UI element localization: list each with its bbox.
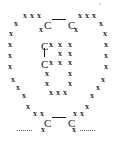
electron-cross-outer-top-left-arc: x [14,20,18,28]
electron-cross-inner-bottom-arc: x [56,89,60,97]
electron-cross-inner-mid-row: x [68,50,72,58]
bond-bond-bottom [52,117,66,118]
atom-label-c-mid-upper: C [41,41,48,52]
electron-cross-outer-right-column: x [104,41,108,49]
electron-cross-outer-top-right-arc: x [99,20,103,28]
electron-cross-inner-column-left: x [45,70,49,78]
electron-cross-inner-column-right: x [68,70,72,78]
electron-cross-outer-left-column: x [11,76,15,84]
electron-cross-outer-top-right-arc: x [85,12,89,20]
atom-label-c-bottom-right: C [68,118,75,129]
electron-cross-inner-lower-row: x [49,59,53,67]
electron-cross-inner-column-left: x [45,80,49,88]
bond-bond-left-dotted [17,130,32,131]
electron-cross-outer-top-left-arc: x [30,12,34,20]
electron-cross-inner-column-right: x [68,80,72,88]
electron-cross-outer-right-arc-lower: x [96,84,100,92]
electron-cross-inner-lower-row: x [68,59,72,67]
bond-bond-top [52,19,66,20]
electron-cross-outer-left-arc-lower: x [16,84,20,92]
electron-cross-outer-left-column: x [9,30,13,38]
electron-cross-outer-top-left-arc: x [37,12,41,20]
electron-cross-outer-left-arc-lower: x [22,92,26,100]
electron-cross-outer-top-right-arc: x [78,12,82,20]
electron-cross-inner-upper-row: x [58,41,62,49]
electron-cross-inner-upper-row: x [49,41,53,49]
electron-cross-outer-left-arc-lower: x [26,103,30,111]
electron-cross-inner-lower-row: x [58,59,62,67]
electron-cross-outer-right-column: x [104,63,108,71]
speck-mark [100,4,101,5]
electron-cross-inner-bottom-arc: x [49,89,53,97]
electron-cross-outer-right-column: x [101,76,105,84]
electron-cross-inner-mid-row: x [58,50,62,58]
electron-cross-inner-bottom-arc: x [63,89,67,97]
electron-cross-outer-right-arc-lower: x [90,92,94,100]
electron-cross-outer-top-right-arc: x [92,12,96,20]
bond-bond-right-dotted [80,130,95,131]
electron-cross-outer-left-arc-lower: x [33,110,37,118]
electron-cross-outer-left-column: x [8,63,12,71]
electron-cross-outer-right-arc-lower: x [80,110,84,118]
electron-cross-inner-upper-row: x [68,41,72,49]
electron-cross-outer-left-column: x [8,52,12,60]
electron-cross-outer-left-column: x [8,41,12,49]
atom-label-c-top-left: C [44,20,51,31]
electron-cross-inner-top-left: x [39,26,43,34]
electron-cross-outer-right-column: x [104,52,108,60]
atom-label-c-mid-lower: C [41,59,48,70]
atom-label-c-top-right: C [68,20,75,31]
electron-cross-outer-top-left-arc: x [23,12,27,20]
electron-cross-outer-right-arc-lower: x [85,103,89,111]
atom-label-c-bottom-left: C [44,118,51,129]
electron-cross-outer-right-column: x [103,30,107,38]
lewis-structure-diagram: xxxxxxxxxxxxxxxxxxxxxxxxxxxxxxxxxxxxxxxx… [0,0,114,141]
